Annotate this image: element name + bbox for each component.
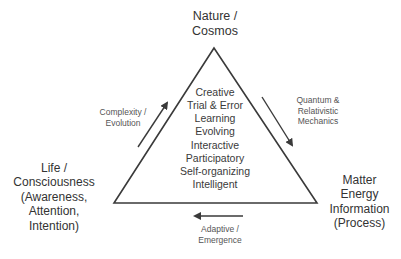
edge-label-line: Quantum & (278, 95, 358, 106)
vertex-label-nature-cosmos: Nature / Cosmos (175, 9, 255, 39)
center-quality: Interactive (155, 139, 275, 152)
vertex-label-line: Life / (0, 161, 108, 175)
vertex-label-line: Nature / (175, 9, 255, 24)
vertex-label-line: Energy (318, 187, 401, 201)
edge-label-line: Adaptive / (180, 224, 260, 235)
center-quality: Evolving (155, 125, 275, 138)
vertex-label-line: (Awareness, (0, 190, 108, 204)
edge-label-complexity-evolution: Complexity / Evolution (88, 107, 158, 128)
edge-label-line: Evolution (88, 118, 158, 129)
center-quality: Learning (155, 112, 275, 125)
edge-label-quantum-mechanics: Quantum & Relativistic Mechanics (278, 95, 358, 127)
vertex-label-line: Intention) (0, 219, 108, 233)
vertex-label-line: Cosmos (175, 24, 255, 39)
edge-label-line: Relativistic (278, 106, 358, 117)
vertex-label-line: (Process) (318, 216, 401, 230)
vertex-label-line: Consciousness (0, 175, 108, 189)
edge-label-line: Complexity / (88, 107, 158, 118)
center-quality: Self-organizing (155, 165, 275, 178)
vertex-label-line: Attention, (0, 204, 108, 218)
vertex-label-matter-energy: Matter Energy Information (Process) (318, 173, 401, 231)
edge-label-adaptive-emergence: Adaptive / Emergence (180, 224, 260, 245)
center-quality: Intelligent (155, 178, 275, 191)
vertex-label-line: Matter (318, 173, 401, 187)
center-quality: Participatory (155, 152, 275, 165)
center-qualities-list: Creative Trial & Error Learning Evolving… (155, 86, 275, 191)
vertex-label-life-consciousness: Life / Consciousness (Awareness, Attenti… (0, 161, 108, 233)
center-quality: Creative (155, 86, 275, 99)
edge-label-line: Mechanics (278, 116, 358, 127)
triangle-diagram: Nature / Cosmos Life / Consciousness (Aw… (0, 0, 401, 259)
vertex-label-line: Information (318, 202, 401, 216)
center-quality: Trial & Error (155, 99, 275, 112)
edge-label-line: Emergence (180, 235, 260, 246)
